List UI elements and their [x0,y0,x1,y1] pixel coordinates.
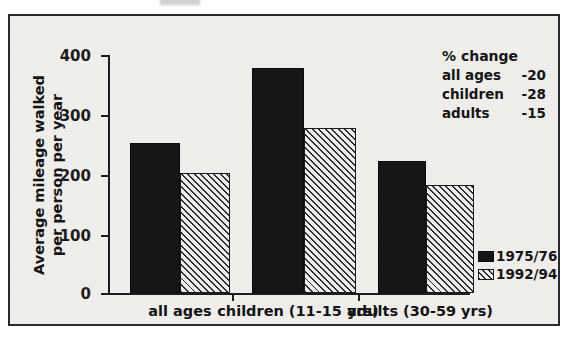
legend-label-1992: 1992/94 [496,267,557,283]
bar-all-ages-1975 [130,143,180,293]
x-axis-label-all-ages: all ages [148,303,211,319]
percent-change-value-adults: -15 [518,104,546,123]
percent-change-value-children: -28 [518,85,546,104]
percent-change-title: % change [442,48,546,64]
legend-label-1975: 1975/76 [496,249,557,265]
x-axis-separator-1 [232,294,234,301]
legend-item-1975: 1975/76 [478,249,557,265]
legend-swatch-solid-icon [478,251,494,262]
bar-adults-1975 [378,161,426,293]
y-tick-label-100: 100 [60,227,91,245]
bar-all-ages-1992 [180,173,230,293]
y-tick-100: 100 [101,235,108,237]
bar-children-1975 [252,68,304,293]
chart-screenshot: Average mileage walked per person per ye… [0,0,570,342]
percent-change-annotation: % change all ages -20 children -28 adult… [442,48,546,123]
x-axis-separator-2 [358,294,360,301]
x-axis-label-adults: adults (30-59 yrs) [347,303,493,319]
y-tick-400: 400 [101,55,108,57]
y-tick-label-0: 0 [81,285,91,303]
cut-off-text-artifact [160,0,200,5]
y-tick-0: 0 [101,293,108,295]
y-axis-line [108,55,110,295]
percent-change-value-all-ages: -20 [518,66,546,85]
legend-item-1992: 1992/94 [478,267,557,283]
y-tick-label-400: 400 [60,47,91,65]
percent-change-label-all-ages: all ages [442,66,501,85]
bar-adults-1992 [426,185,474,293]
y-axis-title-line-1: Average mileage walked [30,75,48,275]
y-tick-300: 300 [101,115,108,117]
plot-area: 400 300 200 100 0 all ages children (11-… [108,55,468,293]
bar-children-1992 [304,128,356,293]
percent-change-row-all-ages: all ages -20 [442,66,546,85]
percent-change-row-adults: adults -15 [442,104,546,123]
percent-change-label-adults: adults [442,104,490,123]
percent-change-row-children: children -28 [442,85,546,104]
y-tick-label-300: 300 [60,107,91,125]
y-tick-200: 200 [101,175,108,177]
x-axis-line [108,293,470,295]
chart-legend: 1975/76 1992/94 [478,249,557,285]
percent-change-label-children: children [442,85,504,104]
y-tick-label-200: 200 [60,167,91,185]
legend-swatch-hatch-icon [478,269,494,280]
